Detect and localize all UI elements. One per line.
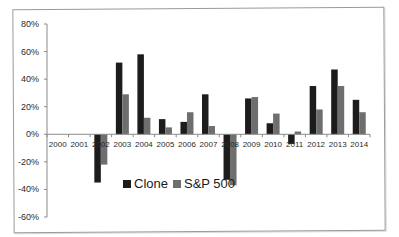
x-tick-label: 2006 (178, 140, 196, 149)
x-tick-label: 2012 (307, 140, 325, 149)
bar-clone-2009 (245, 98, 252, 134)
bar-clone-2012 (310, 86, 317, 134)
bar-s-p-500-2012 (316, 109, 323, 134)
x-tick-label: 2005 (157, 140, 175, 149)
y-tick-label: 20% (21, 102, 39, 112)
y-tick-label: -60% (18, 212, 39, 222)
legend: Clone S&P 500 (123, 176, 240, 191)
bar-clone-2003 (116, 63, 123, 135)
legend-swatch-clone (123, 180, 131, 188)
y-tick-label: 60% (21, 47, 39, 57)
x-tick-label: 2002 (92, 140, 110, 149)
x-tick-label: 2000 (49, 140, 67, 149)
x-tick-label: 2008 (221, 140, 239, 149)
bar-s-p-500-2010 (273, 114, 280, 135)
x-tick-label: 2011 (286, 140, 304, 149)
x-tick-label: 2004 (135, 140, 153, 149)
bar-s-p-500-2013 (338, 86, 345, 134)
y-tick-label: 0% (26, 129, 39, 139)
x-tick-label: 2001 (70, 140, 88, 149)
bar-clone-2004 (137, 54, 144, 134)
bar-s-p-500-2009 (252, 97, 258, 134)
bar-s-p-500-2007 (209, 126, 216, 134)
bar-s-p-500-2006 (187, 112, 194, 134)
bar-s-p-500-2004 (144, 118, 151, 135)
bar-clone-2007 (202, 94, 209, 134)
bar-s-p-500-2002 (101, 134, 108, 164)
bar-chart: 80%60%40%20%0%-20%-40%-60%20002001200220… (0, 0, 399, 237)
bar-s-p-500-2005 (165, 127, 172, 134)
x-tick-label: 2013 (329, 140, 347, 149)
legend-item-sp500: S&P 500 (173, 176, 235, 191)
x-tick-label: 2009 (243, 140, 261, 149)
bar-clone-2014 (353, 100, 360, 134)
bar-s-p-500-2003 (122, 94, 129, 134)
bar-s-p-500-2014 (359, 112, 366, 134)
bar-clone-2013 (331, 69, 338, 134)
bar-clone-2006 (180, 122, 187, 134)
y-tick-label: -40% (18, 184, 39, 194)
bar-clone-2005 (159, 119, 166, 134)
y-tick-label: 40% (21, 74, 39, 84)
legend-item-clone: Clone (123, 176, 168, 191)
x-tick-label: 2003 (113, 140, 131, 149)
y-tick-label: -20% (18, 157, 39, 167)
x-tick-label: 2010 (264, 140, 282, 149)
x-tick-label: 2014 (350, 140, 368, 149)
legend-label-sp500: S&P 500 (184, 176, 235, 191)
x-tick-label: 2007 (200, 140, 218, 149)
legend-swatch-sp500 (173, 180, 181, 188)
legend-label-clone: Clone (134, 176, 168, 191)
y-tick-label: 80% (21, 19, 39, 29)
bar-clone-2010 (267, 123, 274, 134)
